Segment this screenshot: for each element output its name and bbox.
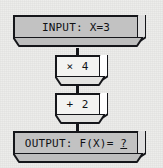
- output-value-blank: ?: [120, 137, 127, 150]
- operation-add-right-face: [99, 93, 108, 116]
- input-label: INPUT: X=3: [42, 22, 110, 33]
- output-label: OUTPUT: F(X)= ?: [25, 138, 127, 149]
- operation-add-bottom-face: [55, 114, 101, 123]
- input-block: INPUT: X=3: [13, 15, 139, 39]
- output-block-right-face: [137, 131, 146, 155]
- operation-multiply-bottom-face: [55, 76, 101, 85]
- operation-multiply: × 4: [55, 55, 101, 78]
- function-machine-diagram: INPUT: X=3 × 4: [0, 0, 163, 168]
- input-block-bottom-face: [13, 37, 139, 46]
- output-label-prefix: OUTPUT: F(X)=: [25, 137, 121, 150]
- input-block-right-face: [137, 15, 146, 39]
- output-block: OUTPUT: F(X)= ?: [13, 131, 139, 155]
- operation-add: + 2: [55, 93, 101, 116]
- operation-multiply-label: × 4: [67, 61, 90, 72]
- operation-multiply-right-face: [99, 55, 108, 78]
- output-block-bottom-face: [13, 153, 139, 162]
- operation-add-label: + 2: [67, 99, 90, 110]
